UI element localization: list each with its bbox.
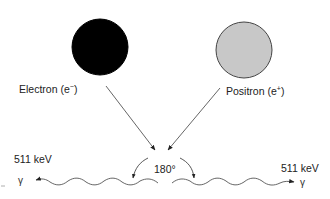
positron-label-text: Positron (e xyxy=(226,85,277,97)
positron-charge: + xyxy=(277,85,281,92)
left-photon-energy: 511 keV xyxy=(14,154,52,165)
angle-label: 180° xyxy=(154,164,176,175)
positron-sphere xyxy=(216,22,272,78)
right-photon-energy: 511 keV xyxy=(281,163,319,174)
positron-label-close: ) xyxy=(281,85,285,97)
electron-charge: − xyxy=(70,83,74,90)
electron-label-close: ) xyxy=(74,83,78,95)
photon-wave-left xyxy=(36,178,158,185)
electron-trajectory-arrow xyxy=(106,86,155,150)
positron-trajectory-arrow xyxy=(168,88,220,150)
electron-sphere xyxy=(72,19,128,75)
left-gamma-symbol: γ xyxy=(18,176,23,186)
electron-label-text: Electron (e xyxy=(19,83,70,95)
curved-arrow-right xyxy=(180,158,194,178)
positron-label: Positron (e+) xyxy=(226,86,284,97)
curved-arrow-left xyxy=(133,158,148,178)
electron-label: Electron (e−) xyxy=(19,84,77,95)
right-gamma-symbol: γ xyxy=(300,178,305,188)
photon-wave-right xyxy=(172,178,294,185)
